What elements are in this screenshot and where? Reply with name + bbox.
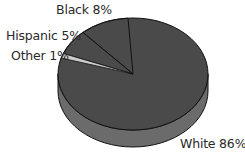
label-white: White 86%	[180, 136, 245, 151]
label-other: Other 1%	[11, 48, 69, 63]
label-black: Black 8%	[56, 2, 112, 17]
label-hispanic: Hispanic 5%	[6, 28, 81, 43]
